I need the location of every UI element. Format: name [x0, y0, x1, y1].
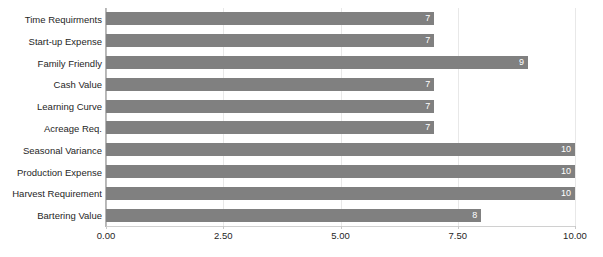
bar-chart: Time RequirmentsStart-up ExpenseFamily F…: [0, 0, 603, 257]
y-axis-category-label: Cash Value: [0, 79, 102, 90]
x-axis-tick-label: 2.50: [214, 230, 233, 241]
y-axis-category-label: Family Friendly: [0, 57, 102, 68]
bar-row[interactable]: 7: [106, 100, 575, 113]
y-axis-category-label: Acreage Req.: [0, 122, 102, 133]
bar-value-label: 7: [425, 80, 430, 89]
x-axis-tick-mark: [458, 226, 459, 229]
bar[interactable]: 7: [106, 121, 434, 134]
y-axis-category-label: Harvest Requirement: [0, 188, 102, 199]
y-axis-category-label: Bartering Value: [0, 210, 102, 221]
bar-value-label: 10: [561, 145, 571, 154]
gridline-x-10.00: [575, 8, 576, 226]
bar[interactable]: 7: [106, 34, 434, 47]
x-axis-tick-mark: [575, 226, 576, 229]
bar-row[interactable]: 7: [106, 12, 575, 25]
bar[interactable]: 8: [106, 209, 481, 222]
bar[interactable]: 10: [106, 165, 575, 178]
bar-value-label: 7: [425, 36, 430, 45]
x-axis-tick-label: 0.00: [97, 230, 116, 241]
bar[interactable]: 10: [106, 143, 575, 156]
bar-value-label: 7: [425, 102, 430, 111]
bar-row[interactable]: 9: [106, 56, 575, 69]
x-axis-tick-label: 7.50: [449, 230, 468, 241]
y-axis-category-labels: Time RequirmentsStart-up ExpenseFamily F…: [0, 8, 102, 226]
bar-value-label: 8: [472, 211, 477, 220]
plot-area: 7797771010108: [106, 8, 575, 226]
bar-value-label: 7: [425, 123, 430, 132]
bar[interactable]: 9: [106, 56, 528, 69]
bar-value-label: 10: [561, 189, 571, 198]
y-axis-category-label: Start-up Expense: [0, 35, 102, 46]
bar-row[interactable]: 7: [106, 78, 575, 91]
x-axis-tick-label: 5.00: [331, 230, 350, 241]
y-axis-category-label: Production Expense: [0, 166, 102, 177]
bar[interactable]: 7: [106, 12, 434, 25]
bar-row[interactable]: 8: [106, 209, 575, 222]
y-axis-category-label: Time Requirments: [0, 13, 102, 24]
bar-value-label: 9: [519, 58, 524, 67]
bar-row[interactable]: 7: [106, 121, 575, 134]
x-axis-tick-labels: 0.002.505.007.5010.00: [106, 230, 575, 250]
bar-row[interactable]: 10: [106, 187, 575, 200]
bar-row[interactable]: 10: [106, 165, 575, 178]
bar-value-label: 7: [425, 14, 430, 23]
y-axis-category-label: Seasonal Variance: [0, 144, 102, 155]
bar[interactable]: 10: [106, 187, 575, 200]
x-axis-tick-label: 10.00: [563, 230, 587, 241]
bar-row[interactable]: 7: [106, 34, 575, 47]
bar-value-label: 10: [561, 167, 571, 176]
bar-row[interactable]: 10: [106, 143, 575, 156]
x-axis-tick-mark: [106, 226, 107, 229]
bar[interactable]: 7: [106, 100, 434, 113]
x-axis-tick-mark: [223, 226, 224, 229]
x-axis-tick-mark: [341, 226, 342, 229]
bar[interactable]: 7: [106, 78, 434, 91]
y-axis-category-label: Learning Curve: [0, 101, 102, 112]
